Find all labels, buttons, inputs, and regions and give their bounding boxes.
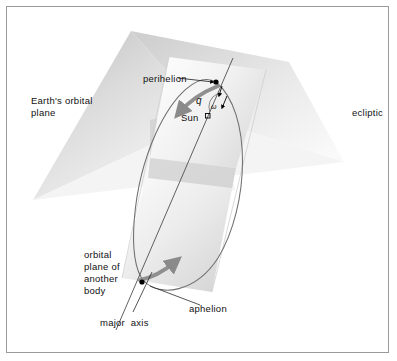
label-orbital-plane-line3: another [84,273,118,285]
perihelion-marker [213,79,218,84]
label-orbital-plane-line2: plane of [84,261,120,273]
label-earth-orbital-plane-line2: plane [31,107,56,119]
label-aphelion: aphelion [189,303,227,315]
label-earth-orbital-plane-line1: Earth's orbital [31,95,93,107]
label-angle-q: q [196,95,202,107]
label-ecliptic: ecliptic [352,107,383,119]
label-sun: Sun [181,112,199,124]
label-orbital-plane-line1: orbital [84,249,112,261]
label-angle-omega: ω [211,101,217,113]
label-perihelion: perihelion [143,73,187,85]
aphelion-marker [139,279,144,284]
label-major-axis: major axis [100,317,149,329]
orbital-inclination-diagram: Earth's orbital plane ecliptic perihelio… [0,0,397,361]
label-orbital-plane-line4: body [84,285,106,297]
